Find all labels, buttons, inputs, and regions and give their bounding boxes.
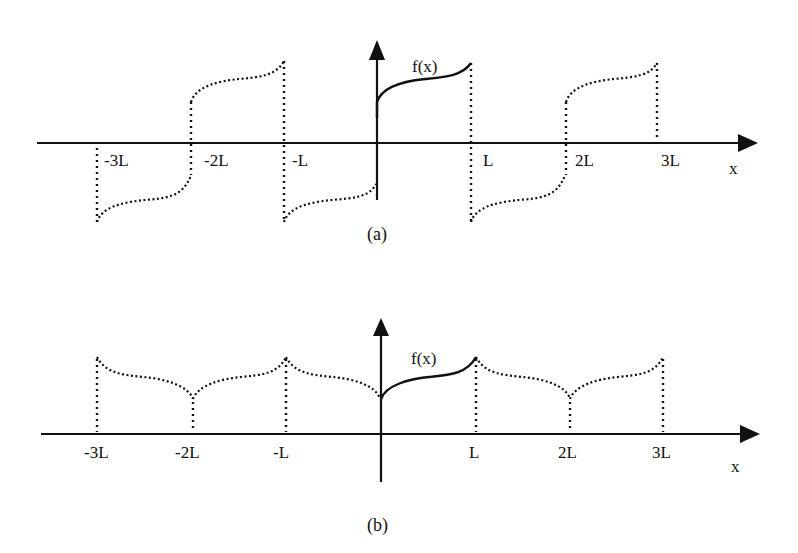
tick-label-neg2L-a: -2L [204,151,229,170]
extension-curve-b [286,357,380,399]
caption-b: (b) [367,515,388,536]
tick-label-3L-b: 3L [652,443,671,462]
function-label-a: f(x) [412,57,437,76]
panel-b: -3L -2L -L L 2L 3L x f(x) (b) [41,318,760,536]
tick-label-neg3L-a: -3L [104,151,129,170]
extension-curve-a [191,61,284,102]
x-axis-label-b: x [731,457,740,476]
extension-curve-b [193,357,286,399]
y-axis-arrow-icon [373,318,389,336]
tick-label-negL-b: -L [273,443,289,462]
x-axis-arrow-icon [738,134,758,152]
x-axis-arrow-icon [740,425,760,443]
tick-label-L-b: L [469,443,479,462]
extension-curve-a [97,175,191,222]
caption-a: (a) [367,224,387,245]
tick-label-negL-a: -L [292,151,308,170]
tick-label-neg3L-b: -3L [84,443,109,462]
extension-curve-b [476,357,570,399]
x-axis-label-a: x [729,159,738,178]
extension-curve-a [471,175,565,222]
function-label-b: f(x) [411,349,436,368]
figure: -3L -2L -L L 2L 3L x f(x) (a) [0,0,798,553]
panel-a: -3L -2L -L L 2L 3L x f(x) (a) [37,40,758,245]
tick-label-2L-a: 2L [575,151,594,170]
tick-label-L-a: L [483,151,493,170]
tick-label-neg2L-b: -2L [175,443,200,462]
tick-label-3L-a: 3L [661,151,680,170]
extension-curve-a [566,63,657,102]
extension-curve-b [97,357,193,399]
extension-curve-b [570,357,663,399]
y-axis-arrow-icon [369,40,385,60]
tick-label-2L-b: 2L [558,443,577,462]
extension-curve-a [284,184,376,222]
